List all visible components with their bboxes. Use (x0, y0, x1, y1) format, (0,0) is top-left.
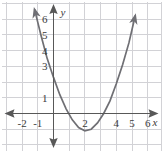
x-tick-label-4: 4 (114, 117, 120, 129)
y-tick-label-1: 1 (42, 92, 48, 104)
y-tick-label-6: 6 (42, 13, 48, 25)
x-axis-label: x (152, 116, 158, 128)
y-tick-label-5: 5 (42, 29, 48, 41)
x-tick-label--2: -2 (18, 117, 27, 129)
x-tick-label-2: 2 (82, 117, 88, 129)
parabola-coordinate-graph: -2 -1 2 4 5 6 1 3 4 5 6 y x (0, 0, 163, 153)
y-tick-label-4: 4 (42, 45, 48, 57)
y-axis-label: y (60, 6, 66, 18)
graph-canvas: -2 -1 2 4 5 6 1 3 4 5 6 y x (0, 0, 163, 153)
x-tick-label-6: 6 (145, 117, 151, 129)
y-tick-label-3: 3 (42, 60, 48, 72)
x-tick-label-5: 5 (129, 117, 135, 129)
figure-background (0, 0, 163, 153)
x-tick-label--1: -1 (33, 117, 42, 129)
